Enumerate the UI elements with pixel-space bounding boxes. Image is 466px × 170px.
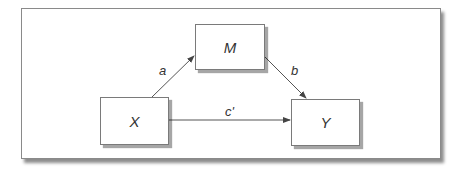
node-x: X — [100, 97, 169, 145]
edge-a-label: a — [159, 63, 166, 78]
edge-c-prime-label: c' — [225, 104, 234, 119]
node-m: M — [195, 24, 265, 70]
node-x-label: X — [129, 113, 139, 130]
node-m-label: M — [224, 39, 237, 56]
node-y-label: Y — [320, 114, 330, 131]
node-y: Y — [291, 99, 360, 146]
edge-b-arrow — [264, 56, 306, 98]
edge-b-label: b — [291, 63, 298, 78]
